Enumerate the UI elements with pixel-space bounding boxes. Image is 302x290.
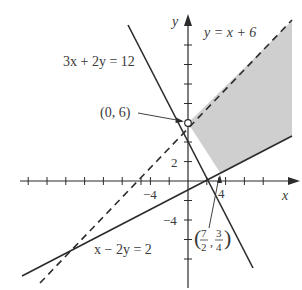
y-axis-arrow-icon: [184, 14, 192, 26]
y-tick-label-2: 2: [171, 155, 178, 170]
x-tick-label-neg4: −4: [143, 187, 157, 202]
point-label-7-2-3-4: ( 7 2 , 3 4 ): [194, 225, 231, 253]
y-axis: [184, 14, 192, 288]
pointer-arrow-0-6: [138, 113, 184, 123]
y-axis-label: y: [170, 14, 179, 29]
y-tick-label-neg4: −4: [163, 213, 177, 228]
arrowhead-icon: [176, 118, 185, 124]
x-axis-arrow-icon: [288, 177, 300, 185]
svg-text:2: 2: [201, 241, 207, 253]
open-point-0-6: [185, 120, 192, 127]
equation-label-y-equals-x-plus-6: y = x + 6: [202, 25, 256, 40]
svg-text:4: 4: [216, 241, 222, 253]
x-axis-label: x: [281, 188, 289, 203]
svg-text:3: 3: [216, 227, 222, 239]
svg-text:): ): [224, 225, 231, 250]
equation-label-3x-plus-2y-equals-12: 3x + 2y = 12: [63, 54, 135, 69]
svg-text:7: 7: [201, 227, 207, 239]
equation-label-x-minus-2y-equals-2: x − 2y = 2: [94, 242, 152, 257]
shaded-feasible-region: [188, 21, 292, 174]
x-tick-label-4: 4: [218, 186, 225, 201]
x-axis: [20, 177, 300, 185]
line-x-minus-2y-equals-2: [22, 136, 292, 276]
arrowhead-icon: [217, 175, 222, 183]
inequality-graph: y x −4 4 2 −4 y = x + 6 3x + 2y = 12 x −…: [0, 0, 302, 290]
point-label-0-6: (0, 6): [100, 105, 131, 121]
svg-text:,: ,: [210, 235, 213, 249]
